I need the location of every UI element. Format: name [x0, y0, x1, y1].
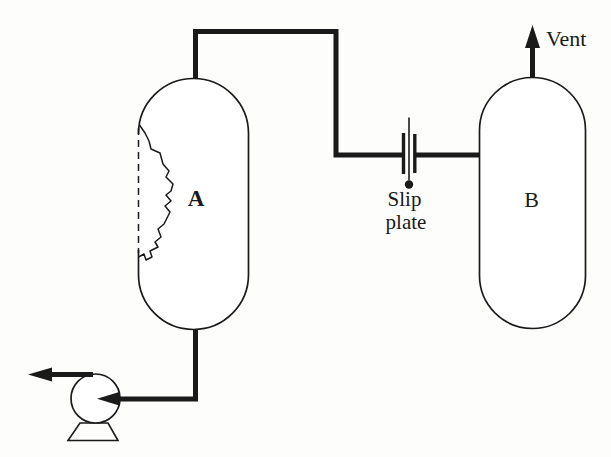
slip-plate-symbol — [404, 118, 415, 189]
vent-arrowhead — [525, 25, 540, 48]
pump-base — [68, 423, 118, 441]
pump-symbol — [28, 368, 120, 441]
vessel-a-label: A — [188, 186, 205, 211]
pipe-vessel-a-bottom-to-pump — [118, 324, 196, 399]
process-diagram: A B Slip plate Vent — [0, 0, 611, 457]
vessels — [139, 78, 586, 330]
diagram-canvas: A B Slip plate Vent — [0, 0, 611, 457]
slip-plate-label-line1: Slip — [388, 187, 422, 211]
vent-label: Vent — [546, 26, 586, 51]
pump-outlet-arrowhead — [28, 368, 52, 382]
slip-plate-label-line2: plate — [386, 210, 427, 234]
vessel-b-label: B — [524, 187, 539, 212]
